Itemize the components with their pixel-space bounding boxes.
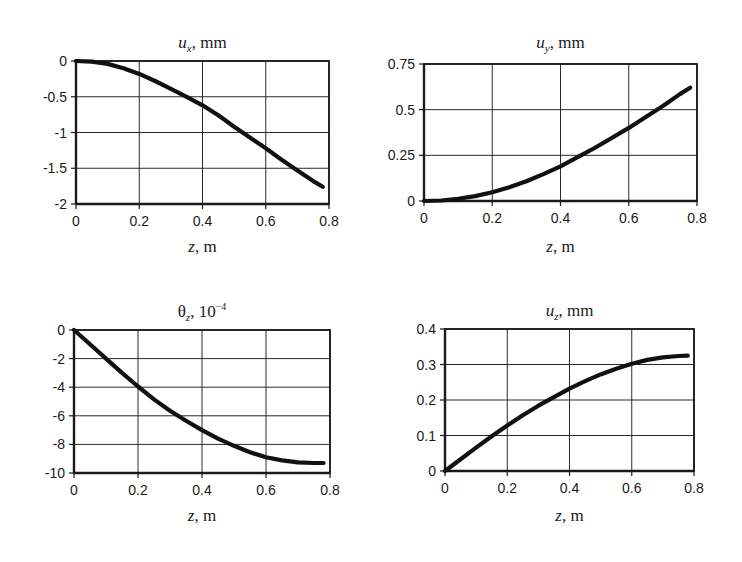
y-tick-label: -6 bbox=[53, 408, 66, 424]
x-axis-unit: , m bbox=[194, 506, 216, 525]
panel-uy: 00.20.40.60.800.250.50.75uy, mmz, m bbox=[388, 33, 707, 256]
chart-title: ux, mm bbox=[178, 33, 226, 54]
panel-uz: 00.20.40.60.800.10.20.30.4uz, mmz, m bbox=[417, 301, 704, 525]
y-tick-label: -4 bbox=[53, 379, 66, 395]
y-tick-label: 0 bbox=[57, 322, 65, 338]
y-tick-label: 0 bbox=[59, 53, 67, 69]
x-axis-label: z, m bbox=[187, 237, 216, 256]
title-symbol: u bbox=[536, 33, 545, 52]
x-axis-unit: , m bbox=[553, 237, 575, 256]
series-line-u-y bbox=[424, 88, 690, 201]
grid bbox=[69, 330, 330, 478]
y-tick-label: 0 bbox=[428, 463, 436, 479]
series-line---z bbox=[74, 330, 324, 463]
x-axis-label: z, m bbox=[554, 506, 583, 525]
x-tick-label: 0.6 bbox=[256, 482, 276, 498]
x-tick-label: 0.4 bbox=[192, 482, 212, 498]
y-tick-label: -1 bbox=[55, 125, 68, 141]
x-tick-label: 0.4 bbox=[551, 210, 571, 226]
y-tick-label: 0 bbox=[407, 193, 415, 209]
x-tick-label: 0.4 bbox=[193, 213, 213, 229]
x-axis-label: z, m bbox=[187, 506, 216, 525]
x-tick-label: 0.6 bbox=[256, 213, 276, 229]
title-unit: , mm bbox=[192, 33, 227, 52]
chart-title: uz, mm bbox=[546, 301, 594, 322]
figure: 00.20.40.60.80-0.5-1-1.5-2ux, mmz, m 00.… bbox=[0, 0, 742, 562]
title-symbol: u bbox=[178, 33, 187, 52]
title-superscript: −4 bbox=[216, 301, 227, 312]
chart-title: θz, 10−4 bbox=[178, 301, 227, 323]
title-unit: , mm bbox=[550, 33, 585, 52]
x-tick-label: 0.2 bbox=[130, 213, 150, 229]
x-tick-label: 0 bbox=[72, 213, 80, 229]
series-line-u-z bbox=[445, 356, 688, 471]
x-axis-label: z, m bbox=[545, 237, 574, 256]
y-tick-label: 0.5 bbox=[396, 102, 416, 118]
x-tick-label: 0.8 bbox=[684, 480, 704, 496]
x-tick-label: 0.6 bbox=[622, 480, 642, 496]
chart-title: uy, mm bbox=[536, 33, 584, 54]
y-tick-label: 0.3 bbox=[417, 357, 437, 373]
y-tick-label: 0.1 bbox=[417, 428, 437, 444]
title-unit: , 10 bbox=[190, 302, 216, 321]
grid bbox=[419, 64, 697, 206]
y-tick-label: -0.5 bbox=[43, 89, 67, 105]
y-tick-label: 0.75 bbox=[388, 56, 415, 72]
title-unit: , mm bbox=[558, 301, 593, 320]
x-tick-label: 0 bbox=[441, 480, 449, 496]
y-tick-label: 0.4 bbox=[417, 321, 437, 337]
x-tick-label: 0.2 bbox=[128, 482, 148, 498]
x-tick-label: 0.2 bbox=[483, 210, 503, 226]
grid bbox=[71, 61, 329, 209]
x-tick-label: 0 bbox=[420, 210, 428, 226]
title-symbol: u bbox=[546, 301, 555, 320]
x-tick-label: 0.4 bbox=[560, 480, 580, 496]
grid bbox=[440, 329, 694, 476]
y-tick-label: 0.25 bbox=[388, 147, 415, 163]
y-tick-label: -1.5 bbox=[43, 160, 67, 176]
x-tick-label: 0.8 bbox=[320, 482, 340, 498]
y-tick-label: -8 bbox=[53, 436, 66, 452]
x-tick-label: 0 bbox=[70, 482, 78, 498]
title-symbol: θ bbox=[178, 302, 186, 321]
y-tick-label: -2 bbox=[55, 196, 68, 212]
x-tick-label: 0.8 bbox=[319, 213, 339, 229]
x-tick-label: 0.8 bbox=[687, 210, 707, 226]
y-tick-label: -2 bbox=[53, 351, 66, 367]
x-tick-label: 0.2 bbox=[498, 480, 518, 496]
y-tick-label: -10 bbox=[45, 465, 65, 481]
x-axis-unit: , m bbox=[562, 506, 584, 525]
x-axis-unit: , m bbox=[195, 237, 217, 256]
y-tick-label: 0.2 bbox=[417, 392, 437, 408]
panel-theta-z: 00.20.40.60.80-2-4-6-8-10θz, 10−4z, m bbox=[45, 301, 340, 525]
panel-ux: 00.20.40.60.80-0.5-1-1.5-2ux, mmz, m bbox=[43, 33, 339, 256]
x-tick-label: 0.6 bbox=[619, 210, 639, 226]
